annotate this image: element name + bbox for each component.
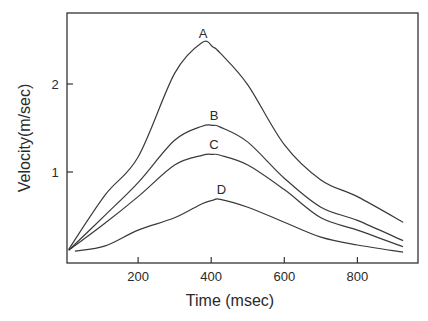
y-tick-label: 2 <box>51 77 58 92</box>
series-labels: ABCD <box>199 26 226 198</box>
velocity-time-chart: 200400600800 12 ABCD Time (msec) Velocit… <box>0 0 428 321</box>
x-axis-ticks: 200400600800 <box>127 257 368 284</box>
x-axis-label: Time (msec) <box>186 292 274 309</box>
series-line-d <box>75 199 403 252</box>
series-label-c: C <box>209 137 218 152</box>
y-axis-label: Velocity(m/sec) <box>16 84 33 192</box>
y-tick-label: 1 <box>51 165 58 180</box>
series-label-a: A <box>199 26 208 41</box>
series-lines <box>69 41 403 252</box>
y-axis-ticks: 12 <box>51 77 73 180</box>
x-tick-label: 600 <box>273 269 295 284</box>
series-label-d: D <box>217 182 226 197</box>
series-label-b: B <box>210 108 219 123</box>
series-line-b <box>69 125 403 251</box>
x-tick-label: 400 <box>200 269 222 284</box>
x-tick-label: 200 <box>127 269 149 284</box>
x-tick-label: 800 <box>347 269 369 284</box>
